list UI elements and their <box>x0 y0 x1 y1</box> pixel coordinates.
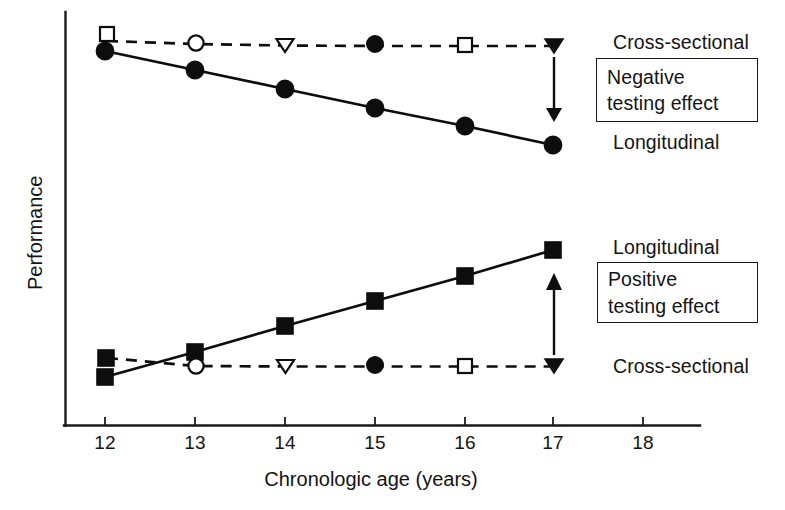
chart-figure: 12 13 14 15 16 17 18 Chronologic age (ye… <box>0 0 785 510</box>
series-upper-cross-sectional <box>100 27 563 53</box>
callout-negative-line-2: testing effect <box>607 90 757 116</box>
annotation-arrow-positive <box>546 273 562 355</box>
marker-open-square <box>100 27 114 41</box>
marker-filled-circle <box>367 36 383 52</box>
upper-longitudinal-line <box>105 51 553 145</box>
x-tick-label: 12 <box>80 432 130 454</box>
x-tick-label: 18 <box>618 432 668 454</box>
marker-filled-square <box>457 268 473 284</box>
marker-filled-square <box>97 369 113 385</box>
arrow-head-down <box>546 108 562 122</box>
label-upper-longitudinal: Longitudinal <box>613 131 719 154</box>
marker-filled-circle <box>367 357 383 373</box>
label-upper-cross-sectional: Cross-sectional <box>613 31 749 54</box>
marker-open-circle <box>188 35 203 50</box>
marker-filled-square <box>545 242 561 258</box>
series-lower-cross-sectional <box>98 350 563 374</box>
x-tick-label: 15 <box>350 432 400 454</box>
series-upper-longitudinal <box>96 42 561 153</box>
label-lower-longitudinal: Longitudinal <box>613 236 719 259</box>
marker-filled-circle <box>544 136 561 153</box>
lower-longitudinal-line <box>105 250 553 377</box>
x-tick-label: 16 <box>440 432 490 454</box>
callout-negative-line-1: Negative <box>607 64 757 90</box>
marker-filled-circle <box>96 42 113 59</box>
lower-cross-sectional-line <box>107 358 556 367</box>
marker-open-square <box>458 38 472 52</box>
marker-filled-square <box>367 293 383 309</box>
x-tick-label: 17 <box>528 432 578 454</box>
marker-filled-square <box>98 350 114 366</box>
x-axis-title: Chronologic age (years) <box>226 468 516 491</box>
marker-open-square <box>458 359 472 373</box>
y-axis-title: Performance <box>24 176 47 291</box>
marker-filled-circle <box>456 117 473 134</box>
x-tick-label: 13 <box>170 432 220 454</box>
callout-positive-line-2: testing effect <box>608 293 757 319</box>
arrow-head-up <box>546 273 562 290</box>
label-lower-cross-sectional: Cross-sectional <box>613 355 749 378</box>
x-tick-marks <box>105 417 643 425</box>
marker-filled-circle <box>366 99 383 116</box>
upper-cross-sectional-line <box>107 41 556 46</box>
marker-open-circle <box>188 358 203 373</box>
callout-positive-line-1: Positive <box>608 266 757 292</box>
marker-filled-square <box>277 318 293 334</box>
marker-filled-circle <box>186 61 203 78</box>
callout-negative-testing-effect: Negative testing effect <box>596 58 758 122</box>
x-tick-label: 14 <box>260 432 310 454</box>
marker-filled-circle <box>276 80 293 97</box>
annotation-arrow-negative <box>546 57 562 122</box>
callout-positive-testing-effect: Positive testing effect <box>597 262 758 323</box>
